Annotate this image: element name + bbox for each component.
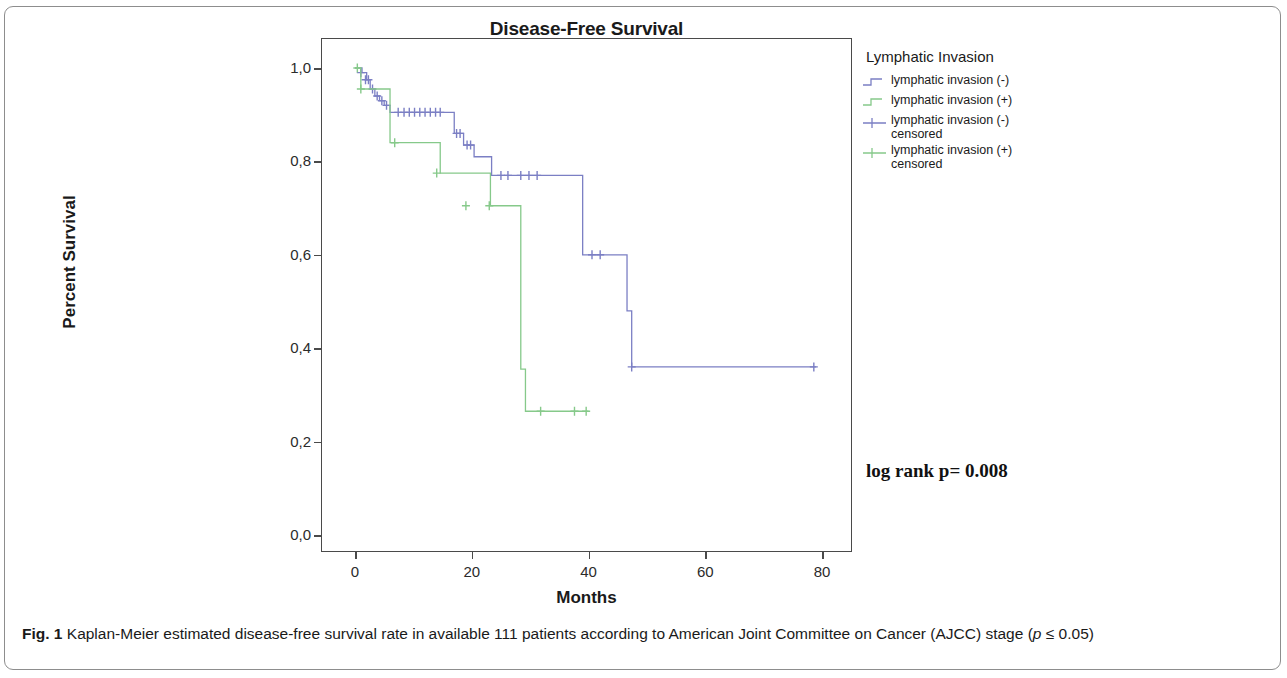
censor-mark [353, 64, 361, 73]
legend-item: lymphatic invasion (+) [862, 94, 1052, 111]
censor-mark [582, 407, 590, 416]
x-tick-mark [822, 552, 824, 559]
censor-mark [628, 362, 636, 371]
censor-mark [436, 108, 444, 117]
censor-mark [588, 250, 596, 259]
chart-title: Disease-Free Survival [321, 18, 852, 40]
series-negative [355, 68, 818, 371]
caption-tail: ≤ 0.05) [1041, 625, 1093, 642]
censor-mark [525, 171, 533, 180]
censor-mark [485, 201, 493, 210]
x-tick-label: 80 [802, 563, 842, 580]
y-axis-label: Percent Survival [60, 152, 80, 372]
x-tick-label: 40 [569, 563, 609, 580]
censor-mark [467, 141, 475, 150]
x-tick-mark [705, 552, 707, 559]
legend-title: Lymphatic Invasion [862, 48, 1052, 65]
x-tick-label: 60 [685, 563, 725, 580]
censor-mark [391, 138, 399, 147]
censor-mark [357, 85, 365, 94]
y-tick-label: 0,4 [263, 339, 311, 356]
censor-mark [504, 171, 512, 180]
legend-item-label: lymphatic invasion (-) [891, 74, 1009, 88]
y-tick-label: 0,6 [263, 246, 311, 263]
figure-panel: Disease-Free Survival Percent Survival 0… [0, 0, 1287, 678]
legend-item-label: lymphatic invasion (-)censored [891, 114, 1009, 141]
x-tick-mark [355, 552, 357, 559]
legend-item-label: lymphatic invasion (+) [891, 94, 1012, 108]
censor-mark [596, 250, 604, 259]
y-tick-label: 0,8 [263, 152, 311, 169]
caption-text: Kaplan-Meier estimated disease-free surv… [62, 625, 1032, 642]
censor-mark [810, 362, 818, 371]
legend: Lymphatic Invasion lymphatic invasion (-… [862, 48, 1052, 174]
y-tick-label: 1,0 [263, 59, 311, 76]
y-tick-mark [314, 68, 321, 70]
x-tick-label: 20 [452, 563, 492, 580]
legend-item: lymphatic invasion (-)censored [862, 114, 1052, 141]
figure-caption: Fig. 1 Kaplan-Meier estimated disease-fr… [22, 622, 1262, 645]
y-tick-mark [314, 535, 321, 537]
censor-mark [517, 171, 525, 180]
censor-mark [497, 171, 505, 180]
series-positive [353, 64, 590, 416]
log-rank-annotation: log rank p= 0.008 [866, 460, 1008, 482]
legend-step-icon [862, 94, 888, 111]
caption-label: Fig. 1 [22, 625, 62, 642]
x-tick-label: 0 [335, 563, 375, 580]
legend-item: lymphatic invasion (-) [862, 74, 1052, 91]
legend-censor-icon [862, 114, 888, 131]
censor-mark [533, 171, 541, 180]
y-tick-mark [314, 255, 321, 257]
censor-mark [433, 169, 441, 178]
legend-items: lymphatic invasion (-)lymphatic invasion… [862, 74, 1052, 171]
step-line [355, 68, 589, 411]
x-tick-mark [589, 552, 591, 559]
y-tick-label: 0,0 [263, 526, 311, 543]
legend-item-label: lymphatic invasion (+)censored [891, 144, 1012, 171]
censor-mark [462, 201, 470, 210]
chart-area: Disease-Free Survival Percent Survival 0… [0, 0, 1287, 615]
y-tick-mark [314, 442, 321, 444]
legend-item: lymphatic invasion (+)censored [862, 144, 1052, 171]
censor-mark [456, 129, 464, 138]
x-tick-mark [472, 552, 474, 559]
legend-step-icon [862, 74, 888, 91]
y-tick-label: 0,2 [263, 433, 311, 450]
survival-curves [321, 38, 852, 552]
censor-mark [570, 407, 578, 416]
censor-mark [537, 407, 545, 416]
x-axis-label: Months [321, 588, 852, 608]
legend-censor-icon [862, 144, 888, 161]
y-tick-mark [314, 348, 321, 350]
y-tick-mark [314, 161, 321, 163]
